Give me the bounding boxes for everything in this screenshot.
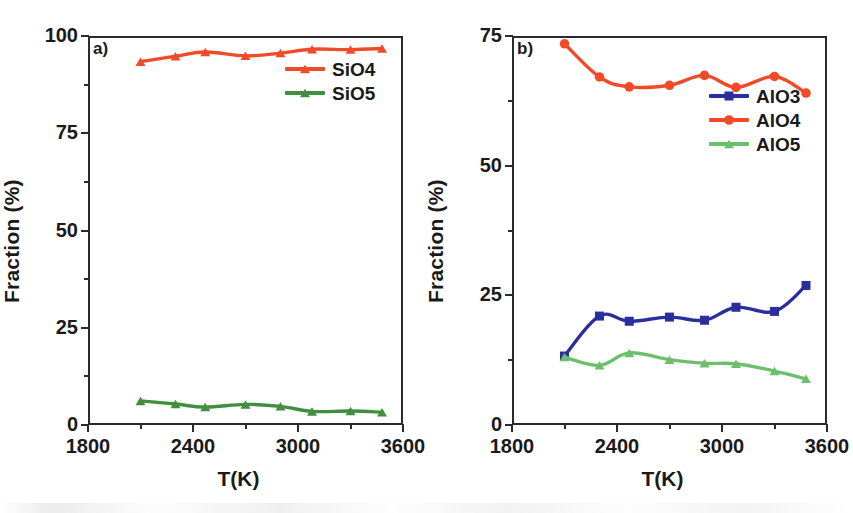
data-point-alo3	[665, 313, 674, 322]
legend-marker-triangle-icon	[724, 140, 734, 149]
x-axis-minor-tick	[774, 424, 776, 429]
x-axis-tick	[192, 424, 194, 432]
data-point-alo4	[665, 80, 675, 90]
legend-item-sio5[interactable]: SiO5	[285, 82, 400, 104]
x-tick-label: 3600	[782, 435, 853, 458]
x-axis-tick	[297, 424, 299, 432]
x-tick-label: 3000	[253, 435, 343, 458]
x-axis-minor-tick	[669, 424, 671, 429]
y-axis-tick	[81, 35, 89, 37]
data-point-alo4	[700, 71, 710, 81]
legend-label: AlO3	[756, 87, 800, 106]
legend-swatch-circle-icon	[709, 118, 749, 122]
data-point-alo4	[624, 82, 634, 92]
y-tick-label: 50	[16, 219, 78, 242]
y-tick-label: 25	[440, 283, 502, 306]
x-tick-label: 2400	[148, 435, 238, 458]
y-tick-label: 25	[16, 316, 78, 339]
panel-a: a) Fraction (%) T(K) SiO4SiO5 0255075100…	[0, 0, 424, 513]
legend-marker-triangle-icon	[300, 89, 310, 98]
legend-swatch-square-icon	[709, 94, 749, 98]
series-line-alo3	[565, 285, 807, 356]
data-point-alo4	[595, 72, 605, 82]
x-axis-tick	[87, 424, 89, 432]
panel-b: b) Fraction (%) T(K) AlO3AlO4AlO5 025507…	[424, 0, 848, 513]
x-tick-label: 1800	[467, 435, 557, 458]
y-axis-tick	[81, 327, 89, 329]
data-point-alo3	[770, 307, 779, 316]
page-scan-artifact	[0, 503, 848, 513]
data-point-alo3	[625, 317, 634, 326]
y-axis-minor-tick	[84, 375, 89, 377]
y-tick-label: 100	[16, 24, 78, 47]
legend-marker-square-icon	[725, 92, 734, 101]
data-point-alo3	[595, 312, 604, 321]
legend-label: SiO4	[332, 60, 375, 79]
legend-label: AlO4	[756, 111, 800, 130]
x-tick-label: 1800	[43, 435, 133, 458]
y-tick-label: 0	[440, 413, 502, 436]
x-axis-tick	[826, 424, 828, 432]
x-axis-tick	[511, 424, 513, 432]
legend-marker-triangle-icon	[300, 65, 310, 74]
legend-item-alo4[interactable]: AlO4	[709, 109, 824, 131]
y-axis-minor-tick	[508, 359, 513, 361]
x-tick-label: 3000	[677, 435, 767, 458]
legend-marker-circle-icon	[724, 115, 734, 125]
y-tick-label: 50	[440, 154, 502, 177]
x-tick-label: 2400	[572, 435, 662, 458]
legend-item-sio4[interactable]: SiO4	[285, 58, 400, 80]
data-point-alo3	[732, 303, 741, 312]
y-axis-tick	[505, 35, 513, 37]
legend-item-alo3[interactable]: AlO3	[709, 85, 824, 107]
y-tick-label: 75	[440, 24, 502, 47]
x-axis-tick	[616, 424, 618, 432]
data-point-alo4	[770, 72, 780, 82]
y-tick-label: 75	[16, 121, 78, 144]
x-axis-minor-tick	[350, 424, 352, 429]
panel-b-legend: AlO3AlO4AlO5	[709, 85, 824, 157]
legend-item-alo5[interactable]: AlO5	[709, 133, 824, 155]
legend-swatch-triangle-icon	[285, 91, 325, 95]
x-axis-tick	[721, 424, 723, 432]
y-axis-tick	[81, 132, 89, 134]
y-axis-minor-tick	[508, 100, 513, 102]
legend-swatch-triangle-icon	[709, 142, 749, 146]
x-axis-tick	[402, 424, 404, 432]
y-axis-tick	[505, 294, 513, 296]
data-point-alo3	[700, 316, 709, 325]
y-axis-tick	[81, 230, 89, 232]
x-axis-minor-tick	[140, 424, 142, 429]
data-point-alo4	[560, 39, 570, 49]
panel-a-legend: SiO4SiO5	[285, 58, 400, 106]
legend-label: AlO5	[756, 135, 800, 154]
y-axis-minor-tick	[84, 278, 89, 280]
legend-swatch-triangle-icon	[285, 67, 325, 71]
y-axis-minor-tick	[84, 84, 89, 86]
x-axis-minor-tick	[564, 424, 566, 429]
data-point-alo3	[802, 281, 811, 290]
y-axis-minor-tick	[508, 230, 513, 232]
x-axis-minor-tick	[245, 424, 247, 429]
y-tick-label: 0	[16, 413, 78, 436]
legend-label: SiO5	[332, 84, 375, 103]
y-axis-tick	[505, 165, 513, 167]
y-axis-minor-tick	[84, 181, 89, 183]
